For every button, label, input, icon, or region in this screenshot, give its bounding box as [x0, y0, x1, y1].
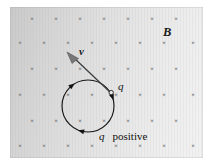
physics-figure: ××××××××××××××××××××××××××××××××××××××××…	[0, 0, 213, 168]
point-charge-marker	[109, 90, 113, 94]
orbit-direction-arrowhead	[78, 129, 85, 134]
velocity-vector-shaft	[73, 57, 112, 94]
charge-label-q: q	[118, 80, 124, 92]
field-label-B: B	[162, 25, 171, 39]
caption-q-positive: q positive	[99, 126, 147, 143]
caption-symbol-q: q	[99, 130, 105, 142]
velocity-label-v: v	[79, 45, 84, 57]
caption-word-positive: positive	[113, 130, 148, 142]
velocity-vector-arrowhead	[67, 52, 79, 64]
diagram-overlay-layer: B v q q positive	[0, 0, 213, 168]
